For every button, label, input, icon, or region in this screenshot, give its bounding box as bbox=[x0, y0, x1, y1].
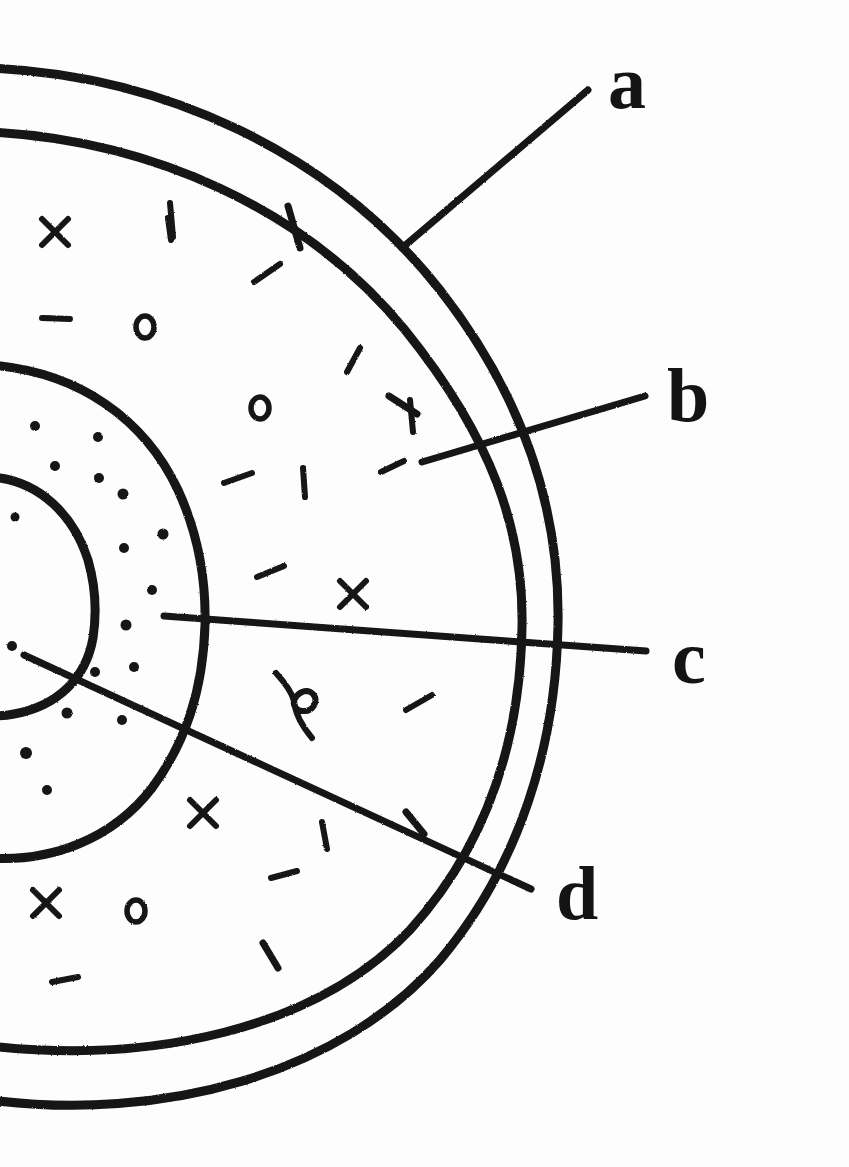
leader-line-d bbox=[24, 655, 531, 889]
label-b: b bbox=[667, 357, 709, 433]
body-outer-arc bbox=[0, 132, 522, 1051]
leader-line-a bbox=[402, 90, 588, 248]
figure-canvas: a b c d bbox=[0, 0, 849, 1167]
body-inner-arc bbox=[0, 130, 484, 1041]
curled-squiggle-mark bbox=[276, 673, 315, 738]
outer-inner-arc bbox=[0, 132, 522, 1051]
dash-marks bbox=[42, 203, 432, 982]
stipple-dots bbox=[7, 421, 169, 795]
label-a: a bbox=[608, 44, 646, 120]
label-c: c bbox=[672, 619, 706, 695]
leader-line-c bbox=[164, 616, 646, 651]
label-d: d bbox=[556, 855, 598, 931]
diagram-svg bbox=[0, 0, 849, 1167]
